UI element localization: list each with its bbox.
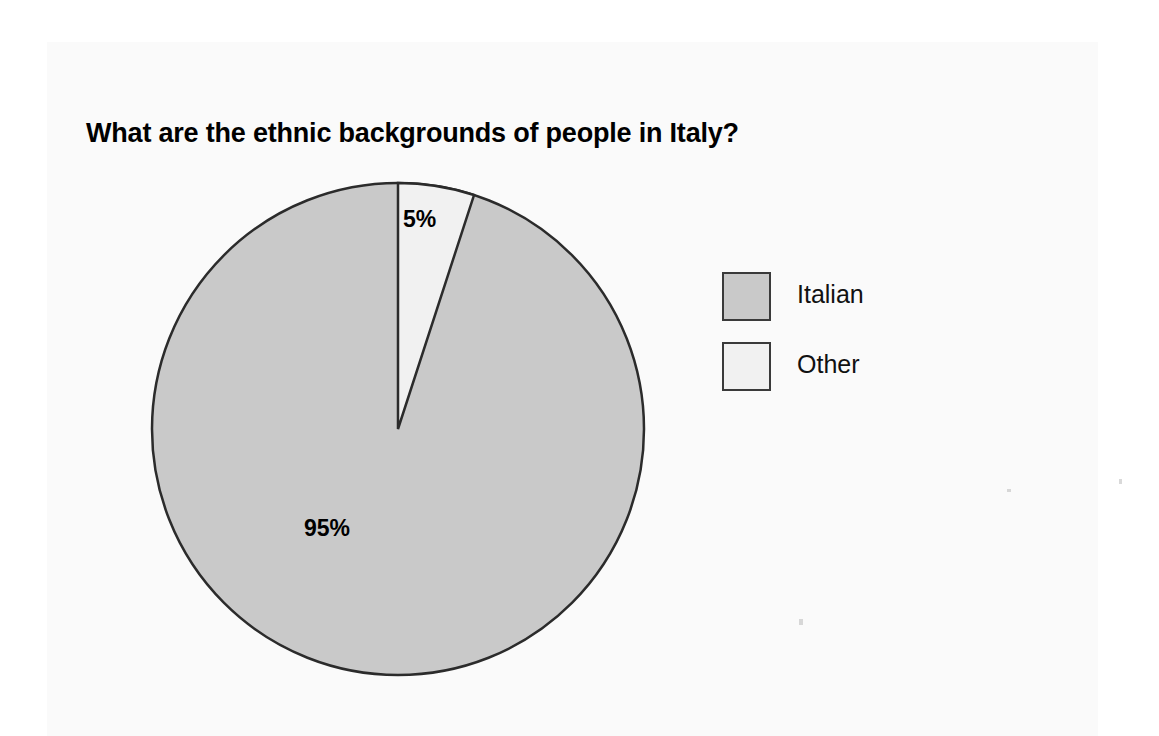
chart-page: What are the ethnic backgrounds of peopl…: [0, 0, 1159, 736]
pie-label-other: 5%: [403, 206, 436, 233]
pie-chart-svg: [130, 155, 670, 715]
pie-label-italian: 95%: [304, 515, 350, 542]
gray-swatch-icon: [722, 272, 771, 321]
chart-legend: Italian Other: [722, 272, 1022, 412]
white-swatch-icon: [722, 342, 771, 391]
legend-label-italian: Italian: [797, 280, 864, 309]
legend-label-other: Other: [797, 350, 860, 379]
legend-item-italian[interactable]: Italian: [722, 272, 1022, 342]
legend-item-other[interactable]: Other: [722, 342, 1022, 412]
